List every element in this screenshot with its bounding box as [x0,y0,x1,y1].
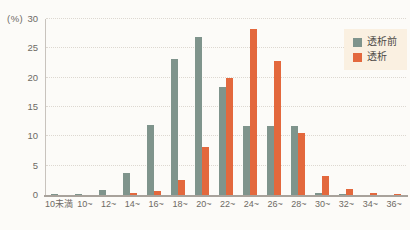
y-tick-label-20: 20 [27,73,38,83]
bar-group-30~ [310,19,334,195]
bar-透析-26~ [274,61,281,195]
bar-group-20~ [190,19,214,195]
x-tick-label-16~: 16~ [144,199,168,210]
bar-透析前-24~ [243,126,250,195]
bar-透析前-14~ [123,173,130,195]
bar-group-16~ [142,19,166,195]
legend-label: 透析前 [367,37,397,47]
legend-swatch-透析 [353,53,362,62]
bar-group-10~ [70,19,94,195]
x-tick-label-24~: 24~ [239,199,263,210]
x-tick-label-22~: 22~ [216,199,240,210]
x-tick-label-20~: 20~ [192,199,216,210]
bar-透析前-20~ [195,37,202,195]
legend-label: 透析 [367,52,387,62]
x-axis-line [44,195,408,197]
bar-透析-28~ [298,133,305,195]
x-tick-label-26~: 26~ [263,199,287,210]
x-tick-label-30~: 30~ [311,199,335,210]
y-tick-label-10: 10 [27,131,38,141]
bar-透析-30~ [322,176,329,195]
x-tick-label-12~: 12~ [97,199,121,210]
y-axis-ticks: 051015202530 [0,19,41,195]
bar-group-24~ [238,19,262,195]
bar-透析前-16~ [147,125,154,195]
bar-透析-20~ [202,147,209,195]
x-tick-label-18~: 18~ [168,199,192,210]
bar-group-14~ [118,19,142,195]
x-tick-label-36~: 36~ [382,199,406,210]
legend-item-透析: 透析 [353,52,397,62]
legend-item-透析前: 透析前 [353,37,397,47]
x-tick-label-34~: 34~ [358,199,382,210]
x-tick-label-32~: 32~ [335,199,359,210]
bar-group-18~ [166,19,190,195]
legend-swatch-透析前 [353,38,362,47]
x-tick-label-28~: 28~ [287,199,311,210]
x-tick-label-10未満: 10未満 [45,199,73,210]
y-tick-label-0: 0 [33,190,38,200]
x-tick-label-10~: 10~ [73,199,97,210]
legend: 透析前透析 [344,29,407,70]
bar-group-26~ [262,19,286,195]
bar-透析前-28~ [291,126,298,195]
bar-group-10未満 [46,19,70,195]
bar-group-22~ [214,19,238,195]
bar-group-28~ [286,19,310,195]
x-tick-label-14~: 14~ [121,199,145,210]
bar-chart-figure: (%) 051015202530 10未満10~12~14~16~18~20~2… [0,0,410,230]
y-tick-label-15: 15 [27,102,38,112]
bar-透析前-18~ [171,59,178,195]
bar-透析-18~ [178,180,185,195]
bar-透析前-26~ [267,126,274,195]
x-axis-ticks: 10未満10~12~14~16~18~20~22~24~26~28~30~32~… [45,199,406,210]
bar-透析-22~ [226,78,233,195]
bar-透析前-22~ [219,87,226,195]
y-tick-label-25: 25 [27,43,38,53]
y-tick-label-5: 5 [33,161,38,171]
bar-透析-24~ [250,29,257,195]
bar-group-12~ [94,19,118,195]
y-tick-label-30: 30 [27,14,38,24]
